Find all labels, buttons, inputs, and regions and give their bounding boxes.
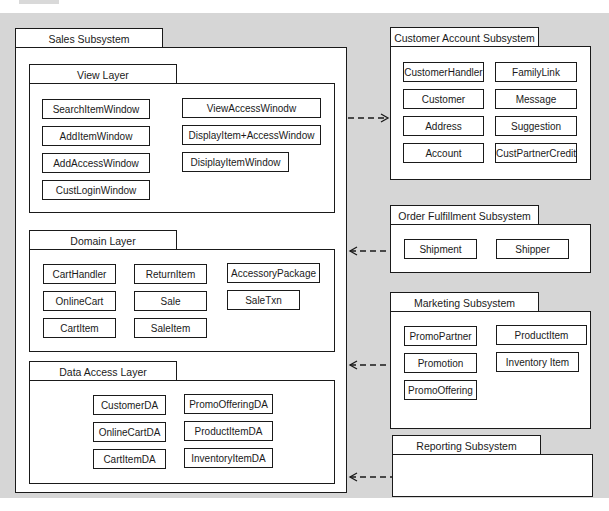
class-accessorypackage: AccessoryPackage	[227, 263, 320, 283]
dashed-arrow-left-icon	[348, 246, 390, 256]
class-customer: Customer	[403, 89, 484, 109]
class-saleitem: SaleItem	[134, 318, 207, 338]
reporting-subsystem-tab: Reporting Subsystem	[392, 435, 541, 455]
class-onlinecartda: OnlineCartDA	[93, 422, 166, 442]
class-custloginwindow: CustLoginWindow	[42, 180, 150, 200]
view-layer-tab: View Layer	[29, 64, 177, 84]
sales-subsystem-title: Sales Subsystem	[48, 33, 129, 45]
reporting-subsystem-package	[392, 454, 593, 497]
dependency-arrow-from-marketing	[348, 360, 390, 370]
view-layer-title: View Layer	[77, 69, 129, 81]
class-sale: Sale	[134, 291, 207, 311]
class-productitemda: ProductItemDA	[184, 421, 273, 441]
class-familylink: FamilyLink	[495, 62, 577, 82]
class-customerhandler: CustomerHandler	[403, 62, 484, 82]
class-onlinecart: OnlineCart	[43, 291, 116, 311]
class-custpartnercredit: CustPartnerCredit	[495, 143, 577, 163]
order-fulfillment-subsystem-tab: Order Fulfillment Subsystem	[390, 205, 539, 225]
class-shipper: Shipper	[496, 239, 569, 259]
class-promoofferingda: PromoOfferingDA	[184, 394, 273, 414]
class-inventoryitemda: InventoryItemDA	[184, 448, 273, 468]
dependency-arrow-to-customer-account	[348, 113, 390, 123]
domain-layer-title: Domain Layer	[70, 235, 135, 247]
class-cartitemda: CartItemDA	[93, 449, 166, 469]
data-access-layer-title: Data Access Layer	[59, 366, 147, 378]
class-message: Message	[495, 89, 577, 109]
dashed-arrow-right-icon	[348, 113, 390, 123]
class-productitem: ProductItem	[496, 325, 587, 345]
marketing-subsystem-title: Marketing Subsystem	[414, 297, 515, 309]
class-saletxn: SaleTxn	[227, 290, 300, 310]
marketing-subsystem-tab: Marketing Subsystem	[390, 292, 539, 312]
class-promopartner: PromoPartner	[404, 326, 477, 346]
class-address: Address	[403, 116, 484, 136]
customer-account-subsystem-title: Customer Account Subsystem	[394, 32, 535, 44]
data-access-layer-package	[29, 380, 335, 484]
class-promotion: Promotion	[404, 353, 477, 373]
class-promooffering: PromoOffering	[404, 380, 477, 400]
dependency-arrow-from-reporting	[348, 472, 392, 482]
corner-tab	[19, 0, 59, 4]
class-customerda: CustomerDA	[93, 395, 166, 415]
dashed-arrow-left-icon	[348, 360, 390, 370]
class-additemwindow: AddItemWindow	[42, 126, 150, 146]
class-cartitem: CartItem	[43, 318, 116, 338]
class-addaccesswindow: AddAccessWindow	[42, 153, 150, 173]
order-fulfillment-subsystem-title: Order Fulfillment Subsystem	[398, 210, 530, 222]
sales-subsystem-tab: Sales Subsystem	[15, 28, 163, 48]
data-access-layer-tab: Data Access Layer	[29, 361, 177, 381]
class-returnitem: ReturnItem	[134, 264, 207, 284]
diagram-canvas: Sales Subsystem View Layer SearchItemWin…	[0, 13, 609, 498]
customer-account-subsystem-tab: Customer Account Subsystem	[390, 27, 539, 47]
class-displayitem-accesswindow: DisplayItem+AccessWindow	[182, 125, 321, 145]
class-viewaccesswinodw: ViewAccessWinodw	[182, 98, 321, 118]
class-inventory-item: Inventory Item	[496, 352, 579, 372]
dashed-arrow-left-icon	[348, 472, 392, 482]
class-suggestion: Suggestion	[495, 116, 577, 136]
domain-layer-tab: Domain Layer	[29, 230, 177, 250]
class-shipment: Shipment	[404, 239, 477, 259]
class-disiplayitemwindow: DisiplayItemWindow	[182, 152, 289, 172]
reporting-subsystem-title: Reporting Subsystem	[416, 440, 516, 452]
class-searchitemwindow: SearchItemWindow	[42, 99, 150, 119]
class-account: Account	[403, 143, 484, 163]
dependency-arrow-from-order-fulfillment	[348, 246, 390, 256]
class-carthandler: CartHandler	[43, 264, 116, 284]
